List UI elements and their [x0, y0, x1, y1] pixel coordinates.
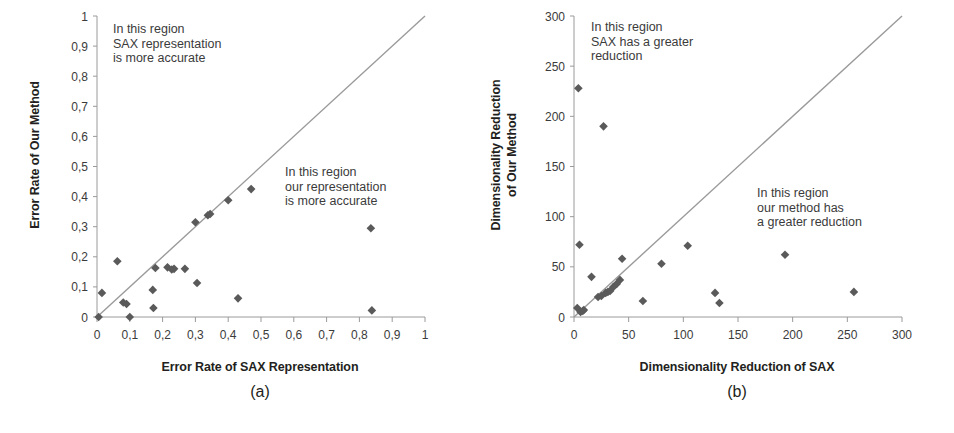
y-tick-label: 1 [81, 10, 88, 24]
data-point-marker [234, 294, 243, 303]
y-tick-label: 0,7 [71, 100, 88, 114]
panel-caption-b: (b) [537, 383, 937, 401]
x-tick-label: 0 [94, 328, 101, 342]
data-point-marker [149, 304, 158, 313]
y-tick-label: 0,4 [71, 190, 88, 204]
data-point-marker [126, 313, 135, 322]
data-point-marker [98, 289, 107, 298]
data-point-marker [587, 273, 596, 282]
x-tick-label: 0,3 [187, 328, 204, 342]
y-tick-label: 0 [81, 311, 88, 325]
data-point-marker [151, 264, 160, 273]
x-tick-label: 250 [837, 328, 857, 342]
x-tick-label: 0,7 [318, 328, 335, 342]
y-tick-label: 150 [545, 160, 565, 174]
panel-b: 050100150200250300050100150200250300 Dim… [477, 0, 954, 433]
data-point-marker [618, 255, 627, 264]
x-tick-label: 100 [673, 328, 693, 342]
data-point-marker [657, 260, 666, 269]
x-tick-label: 0,2 [154, 328, 171, 342]
x-tick-label: 0,5 [253, 328, 270, 342]
y-axis-title-b-line1: Dimensionality Reduction [489, 79, 503, 230]
y-tick-label: 250 [545, 60, 565, 74]
y-tick-label: 50 [552, 260, 566, 274]
x-tick-label: 0 [571, 328, 578, 342]
y-tick-label: 200 [545, 110, 565, 124]
data-point-marker [191, 218, 200, 227]
data-point-marker [247, 185, 256, 194]
y-axis-title-b: Dimensionality Reduction of Our Method [489, 0, 520, 310]
x-tick-label: 0,1 [121, 328, 138, 342]
y-tick-label: 0,5 [71, 160, 88, 174]
annotation-upper-a: In this region SAX representation is mor… [113, 22, 221, 66]
x-tick-label: 0,6 [285, 328, 302, 342]
x-tick-label: 300 [892, 328, 912, 342]
data-point-marker [181, 265, 190, 274]
y-tick-label: 300 [545, 10, 565, 24]
data-point-marker [148, 286, 157, 295]
x-tick-label: 1 [422, 328, 429, 342]
y-axis-title-a: Error Rate of Our Method [28, 10, 42, 300]
x-axis-title-a: Error Rate of SAX Representation [60, 360, 460, 374]
y-tick-label: 0,8 [71, 70, 88, 84]
x-axis-title-b: Dimensionality Reduction of SAX [537, 360, 937, 374]
data-point-marker [193, 279, 202, 288]
data-point-marker [94, 313, 103, 322]
annotation-lower-a: In this region our representation is mor… [285, 165, 386, 209]
data-point-marker [711, 289, 720, 298]
data-point-marker [715, 299, 724, 308]
y-tick-label: 0,9 [71, 40, 88, 54]
data-point-marker [599, 122, 608, 131]
panel-a: 00,10,20,30,40,50,60,70,80,9100,10,20,30… [0, 0, 477, 433]
y-tick-label: 0,6 [71, 130, 88, 144]
y-tick-label: 100 [545, 210, 565, 224]
data-point-marker [367, 224, 376, 233]
y-tick-label: 0,2 [71, 250, 88, 264]
data-point-marker [368, 306, 377, 315]
annotation-lower-b: In this region our method has a greater … [757, 186, 862, 230]
x-tick-label: 150 [728, 328, 748, 342]
x-tick-label: 200 [783, 328, 803, 342]
panel-caption-a: (a) [60, 383, 460, 401]
data-point-marker [113, 257, 122, 266]
y-axis-title-b-line2: of Our Method [505, 113, 519, 197]
figure-container: 00,10,20,30,40,50,60,70,80,9100,10,20,30… [0, 0, 954, 433]
data-point-marker [574, 84, 583, 93]
data-point-marker [575, 240, 584, 249]
y-tick-label: 0,3 [71, 220, 88, 234]
data-point-marker [639, 297, 648, 306]
x-tick-label: 0,8 [351, 328, 368, 342]
data-point-marker [683, 241, 692, 250]
data-point-marker [850, 288, 859, 297]
y-tick-label: 0,1 [71, 280, 88, 294]
data-point-marker [224, 196, 233, 205]
x-tick-label: 0,9 [384, 328, 401, 342]
y-tick-label: 0 [558, 311, 565, 325]
x-tick-label: 0,4 [220, 328, 237, 342]
annotation-upper-b: In this region SAX has a greater reducti… [591, 20, 693, 64]
data-point-marker [781, 250, 790, 259]
x-tick-label: 50 [622, 328, 636, 342]
